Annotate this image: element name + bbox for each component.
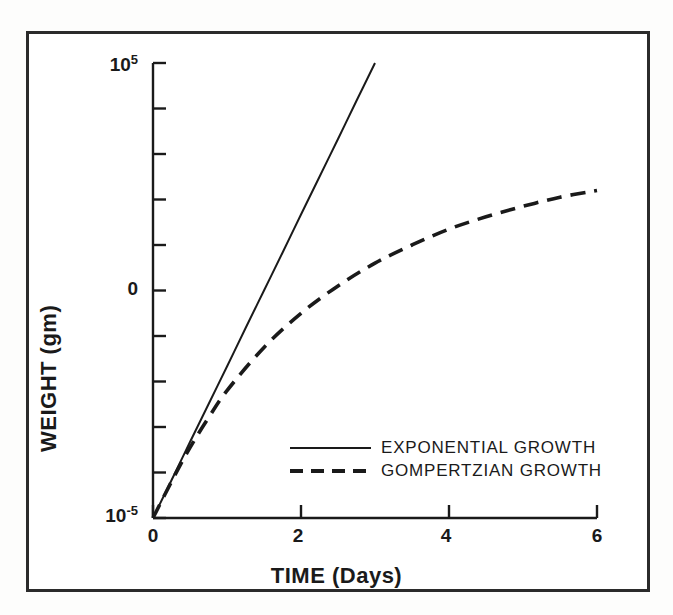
x-axis-ticks [153,505,597,518]
legend-line-samples [290,448,371,471]
y-tick-mantissa-bot: 10 [105,505,126,526]
y-axis-title: WEIGHT (gm) [36,305,62,452]
x-tick-label-4: 4 [426,525,466,547]
series-line-exponential [153,63,375,518]
x-tick-label-6: 6 [577,525,617,547]
y-tick-label-zero: 0 [88,278,138,300]
figure-canvas: 105 0 10-5 0 2 4 6 TIME (Days) WEIGHT (g… [0,0,673,615]
y-axis-ticks [153,63,166,518]
x-tick-label-0: 0 [133,525,173,547]
legend-label-exponential: EXPONENTIAL GROWTH [381,438,596,458]
legend-label-gompertzian: GOMPERTZIAN GROWTH [381,461,602,481]
x-axis-title: TIME (Days) [0,563,673,589]
y-tick-label-1e5: 105 [58,52,138,76]
y-tick-exponent-top: 5 [131,52,138,67]
y-tick-mantissa-mid: 0 [127,278,138,299]
y-tick-mantissa-top: 10 [110,54,131,75]
x-tick-label-2: 2 [278,525,318,547]
y-tick-exponent-bot: -5 [126,503,138,518]
y-tick-label-1e-5: 10-5 [50,503,138,527]
